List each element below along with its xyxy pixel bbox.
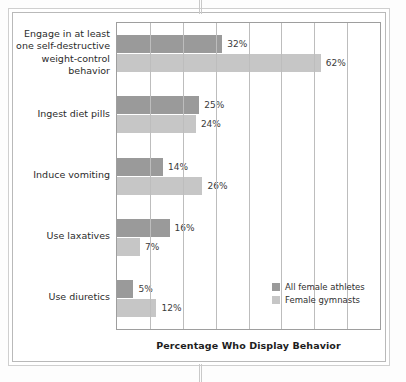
legend-item-all-female-athletes: All female athletes: [272, 282, 365, 292]
legend-swatch-icon: [272, 283, 280, 291]
category-label: Engage in at leastone self-destructivewe…: [10, 28, 110, 78]
gridline: [249, 23, 250, 329]
category-label-line: Use diuretics: [10, 291, 110, 304]
bar-value-label: 24%: [201, 115, 221, 133]
page-fold-mark-bottom: [197, 364, 204, 382]
legend-swatch-icon: [272, 296, 280, 304]
category-label: Use diuretics: [10, 291, 110, 304]
legend-label: Female gymnasts: [285, 295, 360, 305]
bar-all-female-athletes: [117, 219, 170, 237]
bar-all-female-athletes: [117, 158, 163, 176]
chart-legend: All female athletes Female gymnasts: [272, 282, 365, 308]
bar-female-gymnasts: [117, 54, 321, 72]
bar-value-label: 7%: [145, 238, 159, 256]
bar-value-label: 26%: [207, 177, 227, 195]
bar-value-label: 32%: [227, 35, 247, 53]
category-label-line: one self-destructive: [10, 40, 110, 53]
bar-female-gymnasts: [117, 115, 196, 133]
page-fold-mark-top: [197, 0, 204, 14]
bar-value-label: 62%: [326, 54, 346, 72]
bar-all-female-athletes: [117, 280, 133, 298]
category-label-line: Use laxatives: [10, 230, 110, 243]
category-label: Induce vomiting: [10, 169, 110, 182]
category-label: Use laxatives: [10, 230, 110, 243]
bar-value-label: 16%: [175, 219, 195, 237]
category-label: Ingest diet pills: [10, 108, 110, 121]
category-label-line: Engage in at least: [10, 28, 110, 41]
category-label-line: behavior: [10, 65, 110, 78]
gridline: [150, 23, 151, 329]
category-label-line: weight-control: [10, 53, 110, 66]
bar-all-female-athletes: [117, 96, 199, 114]
category-label-line: Induce vomiting: [10, 169, 110, 182]
gridline: [183, 23, 184, 329]
bar-all-female-athletes: [117, 35, 222, 53]
legend-label: All female athletes: [285, 282, 365, 292]
gridline: [216, 23, 217, 329]
bar-value-label: 25%: [204, 96, 224, 114]
bar-female-gymnasts: [117, 177, 202, 195]
bar-value-label: 14%: [168, 158, 188, 176]
category-label-line: Ingest diet pills: [10, 108, 110, 121]
bar-female-gymnasts: [117, 238, 140, 256]
bar-chart: 32%62%25%24%14%26%16%7%5%12% Engage in a…: [0, 0, 406, 382]
legend-item-female-gymnasts: Female gymnasts: [272, 295, 365, 305]
x-axis-title: Percentage Who Display Behavior: [116, 340, 381, 351]
bar-value-label: 12%: [161, 299, 181, 317]
